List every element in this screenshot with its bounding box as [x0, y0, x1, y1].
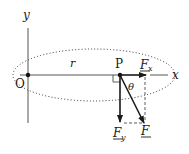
- origin-point: [26, 73, 30, 77]
- fy-label: F y: [112, 126, 126, 142]
- svg-text:y: y: [120, 133, 126, 142]
- fx-label: F x: [139, 58, 153, 73]
- y-axis-label: y: [22, 8, 30, 22]
- f-label: F: [140, 124, 151, 138]
- origin-label: O: [15, 77, 25, 91]
- radius-label: r: [70, 57, 76, 70]
- angle-theta-label: θ: [128, 81, 134, 92]
- svg-text:x: x: [148, 64, 153, 73]
- force-diagram: y x O r P θ F x F y F: [0, 0, 189, 154]
- svg-text:F: F: [140, 124, 150, 138]
- point-p-label: P: [115, 57, 123, 71]
- x-axis-label: x: [172, 68, 179, 82]
